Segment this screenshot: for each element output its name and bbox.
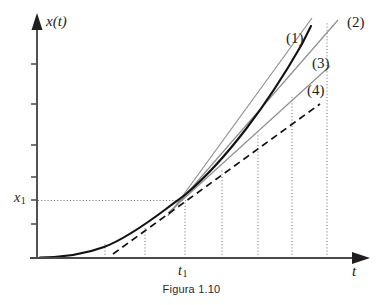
curve-line-2 <box>168 20 338 215</box>
x-axis-label: t <box>352 264 356 279</box>
plot-canvas <box>0 0 383 305</box>
figure-container: x(t) t x1 t1 (1) (2) (3) (4) Figura 1.10 <box>0 0 383 305</box>
x1-subscript: 1 <box>20 195 26 206</box>
curve-line-4-dashed <box>113 104 320 254</box>
y-axis-label-text: x <box>46 13 53 29</box>
y-axis-label: x(t) <box>46 14 67 29</box>
y-axis-arrow-icon <box>32 13 43 30</box>
curve-xt <box>40 26 311 258</box>
curve-label-2: (2) <box>347 15 365 30</box>
x1-value-label: x1 <box>14 191 26 206</box>
curve-line-3 <box>168 66 330 213</box>
curve-line-1 <box>168 18 312 216</box>
t1-subscript: 1 <box>182 268 188 279</box>
t1-value-label: t1 <box>178 264 187 279</box>
curve-label-3: (3) <box>312 56 330 71</box>
figure-caption: Figura 1.10 <box>0 283 383 295</box>
curve-label-1: (1) <box>286 31 304 46</box>
y-axis-label-arg: (t) <box>53 13 67 29</box>
curve-label-4: (4) <box>307 83 325 98</box>
